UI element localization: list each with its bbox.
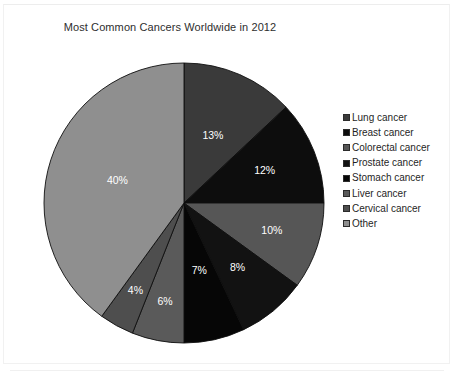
pie-plot-area: 13%12%10%8%7%6%4%40% bbox=[43, 62, 325, 344]
legend-item-label: Lung cancer bbox=[352, 113, 407, 123]
pie-slice-value-label: 8% bbox=[230, 261, 245, 273]
chart-title: Most Common Cancers Worldwide in 2012 bbox=[0, 21, 340, 33]
pie-slice-value-label: 12% bbox=[254, 164, 275, 176]
legend-color-swatch-icon bbox=[343, 190, 350, 197]
legend-item[interactable]: Stomach cancer bbox=[343, 171, 451, 186]
pie-chart-figure: Most Common Cancers Worldwide in 2012 13… bbox=[0, 0, 455, 380]
legend-item[interactable]: Liver cancer bbox=[343, 186, 451, 201]
legend-color-swatch-icon bbox=[343, 129, 350, 136]
legend-item[interactable]: Lung cancer bbox=[343, 110, 451, 125]
pie-slice-group bbox=[44, 63, 324, 343]
legend-color-swatch-icon bbox=[343, 220, 350, 227]
legend-item-label: Colorectal cancer bbox=[352, 143, 430, 153]
pie-slice-value-label: 6% bbox=[158, 295, 173, 307]
legend-item-label: Stomach cancer bbox=[352, 173, 424, 183]
legend-item-label: Prostate cancer bbox=[352, 158, 422, 168]
legend-item[interactable]: Colorectal cancer bbox=[343, 140, 451, 155]
legend-color-swatch-icon bbox=[343, 144, 350, 151]
pie-slice-value-label: 10% bbox=[261, 224, 282, 236]
legend-color-swatch-icon bbox=[343, 114, 350, 121]
pie-slice-value-label: 7% bbox=[192, 264, 207, 276]
legend-item-label: Cervical cancer bbox=[352, 204, 421, 214]
legend-color-swatch-icon bbox=[343, 205, 350, 212]
legend-item[interactable]: Other bbox=[343, 216, 451, 231]
legend-item-label: Other bbox=[352, 219, 377, 229]
legend-item[interactable]: Breast cancer bbox=[343, 125, 451, 140]
legend-color-swatch-icon bbox=[343, 175, 350, 182]
chart-legend: Lung cancerBreast cancerColorectal cance… bbox=[343, 110, 451, 232]
legend-item[interactable]: Prostate cancer bbox=[343, 156, 451, 171]
legend-color-swatch-icon bbox=[343, 160, 350, 167]
legend-item[interactable]: Cervical cancer bbox=[343, 201, 451, 216]
pie-slice-value-label: 4% bbox=[128, 284, 143, 296]
figure-baseline-rule bbox=[10, 370, 444, 371]
pie-slice-value-label: 40% bbox=[107, 174, 128, 186]
legend-item-label: Liver cancer bbox=[352, 189, 406, 199]
legend-item-label: Breast cancer bbox=[352, 128, 414, 138]
pie-slice-value-label: 13% bbox=[202, 129, 223, 141]
pie-svg: 13%12%10%8%7%6%4%40% bbox=[43, 62, 325, 344]
